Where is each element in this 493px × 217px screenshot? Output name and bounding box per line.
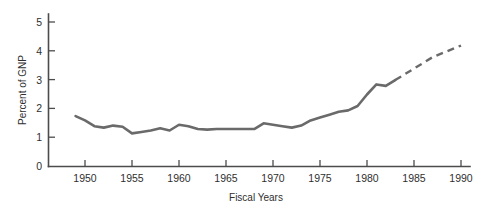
x-axis-title: Fiscal Years	[229, 192, 283, 203]
x-tick-labels: 1950 1955 1960 1965 1970 1975 1980 1985 …	[73, 172, 473, 184]
y-tick-labels: 5 4 3 2 1 0	[36, 16, 42, 172]
y-tick-label-0: 0	[36, 160, 42, 172]
x-tick-label-1980: 1980	[355, 172, 379, 184]
x-tick-label-1955: 1955	[120, 172, 144, 184]
x-tick-marks	[85, 160, 461, 167]
y-tick-label-2: 2	[36, 102, 42, 114]
x-tick-label-1960: 1960	[167, 172, 191, 184]
x-tick-label-1990: 1990	[449, 172, 473, 184]
data-line-projected	[395, 46, 461, 81]
x-tick-label-1975: 1975	[308, 172, 332, 184]
x-tick-label-1970: 1970	[261, 172, 285, 184]
chart-container: 5 4 3 2 1 0 1950 1955 1960 1965 1970 19	[0, 0, 493, 217]
y-tick-label-5: 5	[36, 16, 42, 28]
data-line-actual	[76, 80, 396, 133]
y-tick-label-1: 1	[36, 131, 42, 143]
x-tick-label-1950: 1950	[73, 172, 97, 184]
y-axis-title: Percent of GNP	[17, 55, 28, 125]
x-tick-label-1985: 1985	[402, 172, 426, 184]
x-tick-label-1965: 1965	[214, 172, 238, 184]
y-tick-marks	[49, 22, 56, 137]
line-chart: 5 4 3 2 1 0 1950 1955 1960 1965 1970 19	[0, 0, 493, 217]
y-tick-label-4: 4	[36, 45, 42, 57]
y-tick-label-3: 3	[36, 74, 42, 86]
